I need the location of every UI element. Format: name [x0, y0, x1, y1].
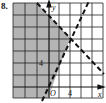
- x-tick-label-4: 4: [68, 89, 72, 98]
- x-axis-label: x: [97, 90, 102, 99]
- origin-label: O: [50, 89, 56, 98]
- y-tick-label-4: 4: [39, 59, 43, 68]
- y-axis-arrow-icon: [47, 1, 51, 7]
- inequality-graph: y x O 4 4: [0, 0, 106, 103]
- y-axis-label: y: [51, 3, 56, 12]
- shaded-solution-region: [13, 3, 70, 98]
